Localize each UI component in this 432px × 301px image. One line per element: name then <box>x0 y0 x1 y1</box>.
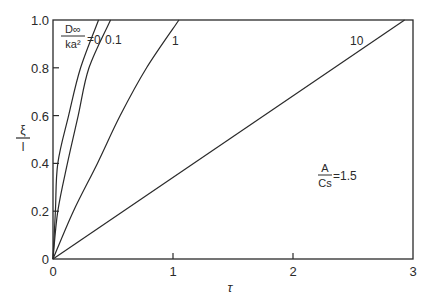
series-line-0.1 <box>53 20 111 259</box>
plot-area-border <box>53 20 413 259</box>
series-lines <box>53 20 405 259</box>
parameter-label: D∞ ka² = <box>61 23 94 50</box>
y-axis-label-den: l <box>22 140 25 154</box>
parameter-denominator: ka² <box>65 38 81 50</box>
chart: 0123 00.20.40.60.81.0 τ ξ l D∞ ka² = 0 0… <box>0 0 432 301</box>
x-tick-label: 3 <box>409 264 416 279</box>
series-label-10: 10 <box>350 34 364 48</box>
series-line-0 <box>53 20 99 259</box>
y-tick-label: 0 <box>42 252 49 267</box>
series-label-1: 1 <box>172 34 179 48</box>
y-tick-label: 0.4 <box>31 156 49 171</box>
annotation-value: =1.5 <box>333 169 357 183</box>
y-tick-label: 1.0 <box>31 13 49 28</box>
y-tick-label: 0.8 <box>31 61 49 76</box>
x-tick-label: 2 <box>289 264 296 279</box>
plot-frame <box>53 20 413 259</box>
series-label-0.1: 0.1 <box>105 33 122 47</box>
x-axis-ticks: 0123 <box>49 253 416 279</box>
x-tick-label: 1 <box>169 264 176 279</box>
x-axis-label: τ <box>228 280 234 295</box>
y-axis-label-num: ξ <box>20 123 26 137</box>
annotation-a-over-cs: A Cs =1.5 <box>318 162 357 189</box>
annotation-numerator: A <box>321 162 329 174</box>
y-tick-label: 0.6 <box>31 109 49 124</box>
y-tick-label: 0.2 <box>31 204 49 219</box>
series-line-10 <box>53 20 405 259</box>
y-axis-label-fraction: ξ l <box>16 123 30 154</box>
annotation-denominator: Cs <box>318 177 332 189</box>
series-line-1 <box>53 20 179 259</box>
parameter-equals: = <box>87 32 94 46</box>
series-label-0: 0 <box>94 33 101 47</box>
parameter-numerator: D∞ <box>65 23 81 35</box>
x-tick-label: 0 <box>49 264 56 279</box>
